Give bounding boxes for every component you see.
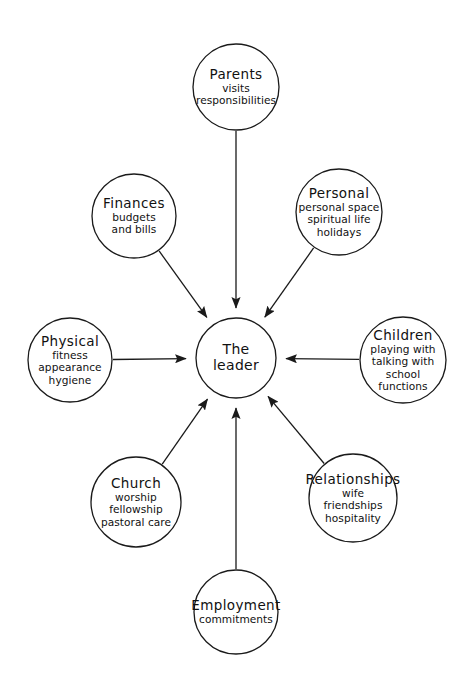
circle-layer — [28, 44, 446, 654]
node-circle-children[interactable] — [360, 317, 446, 403]
arrow-relationships-to-center — [268, 396, 324, 463]
arrow-physical-to-center — [113, 359, 186, 360]
arrow-church-to-center — [162, 399, 207, 464]
node-circle-personal[interactable] — [296, 169, 382, 255]
node-circle-physical[interactable] — [28, 318, 112, 402]
diagram-canvas: ParentsvisitsresponsibilitiesFinancesbud… — [0, 0, 464, 683]
node-circle-church[interactable] — [91, 457, 181, 547]
center-circle-the-leader[interactable] — [196, 318, 276, 398]
node-circle-finances[interactable] — [92, 174, 176, 258]
arrow-finances-to-center — [159, 251, 207, 317]
node-circle-employment[interactable] — [194, 570, 278, 654]
node-circle-relationships[interactable] — [309, 454, 397, 542]
node-circle-parents[interactable] — [193, 44, 279, 130]
arrow-personal-to-center — [265, 248, 314, 317]
diagram-svg — [0, 0, 464, 683]
arrow-children-to-center — [286, 359, 359, 360]
